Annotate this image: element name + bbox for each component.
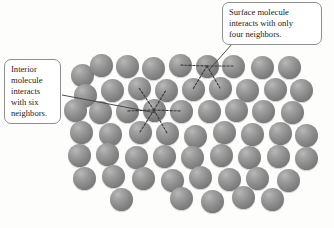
callout-interior-molecule: Interior molecule interacts with six nei… (4, 59, 61, 124)
molecule-sphere (252, 100, 275, 123)
molecule-sphere (68, 144, 91, 167)
molecule-sphere (290, 79, 313, 102)
figure-canvas: Surface molecule interacts with only fou… (0, 0, 334, 228)
molecule-sphere (281, 101, 304, 124)
molecule-sphere (89, 101, 112, 124)
molecule-sphere (210, 144, 233, 167)
molecule-sphere (236, 79, 259, 102)
molecule-sphere (246, 167, 269, 190)
molecule-sphere (238, 146, 261, 169)
molecule-sphere (101, 79, 124, 102)
molecule-sphere (182, 78, 205, 101)
molecule-sphere (209, 77, 232, 100)
molecule-sphere (222, 55, 245, 78)
molecule-sphere (73, 167, 96, 190)
molecule-sphere (128, 77, 151, 100)
molecule-sphere (116, 55, 139, 78)
molecule-sphere (295, 147, 318, 170)
molecule-sphere (261, 188, 284, 211)
molecule-sphere (267, 145, 290, 168)
molecule-sphere (99, 123, 122, 146)
molecule-sphere (129, 121, 152, 144)
surface-molecule (196, 55, 219, 78)
callout-surface-molecule: Surface molecule interacts with only fou… (222, 2, 322, 45)
molecule-sphere (170, 100, 193, 123)
molecule-sphere (189, 166, 212, 189)
molecule-sphere (198, 100, 221, 123)
molecule-sphere (70, 121, 93, 144)
molecule-sphere (156, 122, 179, 145)
molecule-sphere (90, 54, 113, 77)
molecule-sphere (241, 123, 264, 146)
callout-interior-text: Interior molecule interacts with six nei… (11, 64, 55, 119)
molecule-sphere (201, 190, 224, 213)
molecule-sphere (295, 124, 318, 147)
molecule-sphere (96, 143, 119, 166)
molecule-sphere (269, 122, 292, 145)
molecule-sphere (64, 99, 87, 122)
molecule-sphere (169, 54, 192, 77)
callout-surface-text: Surface molecule interacts with only fou… (229, 7, 316, 40)
molecule-sphere (155, 79, 178, 102)
molecule-sphere (278, 56, 301, 79)
molecule-sphere (102, 165, 125, 188)
molecule-sphere (184, 125, 207, 148)
molecule-sphere (251, 56, 274, 79)
molecule-sphere (277, 169, 300, 192)
molecule-sphere (232, 186, 255, 209)
molecule-sphere (125, 146, 148, 169)
molecule-sphere (264, 78, 287, 101)
molecule-sphere (225, 99, 248, 122)
molecule-sphere (110, 188, 133, 211)
molecule-sphere (116, 100, 139, 123)
molecule-sphere (213, 121, 236, 144)
interior-molecule (143, 99, 166, 122)
molecule-sphere (170, 187, 193, 210)
molecule-sphere (142, 57, 165, 80)
molecule-sphere (153, 145, 176, 168)
molecule-sphere (132, 167, 155, 190)
